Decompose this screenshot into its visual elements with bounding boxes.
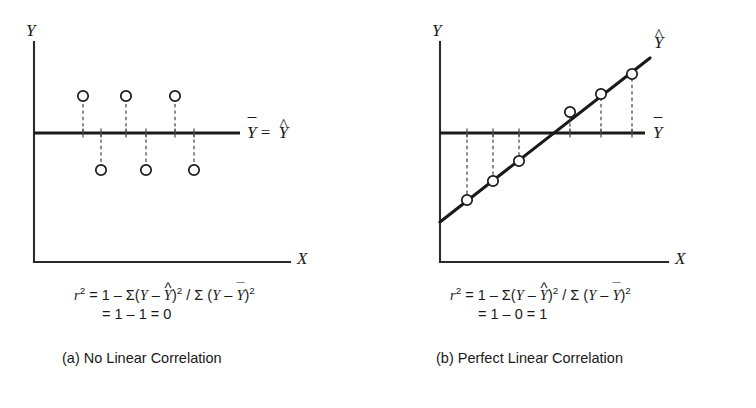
y-axis-label: Y — [26, 22, 35, 39]
exponent: 2 — [456, 285, 461, 296]
data-point — [462, 195, 472, 205]
variable-y: Y — [212, 287, 220, 303]
data-point — [189, 165, 199, 175]
r-squared-result: = 1 – 0 = 1 — [478, 306, 547, 322]
plot-b — [378, 0, 756, 408]
exponent: 2 — [625, 285, 630, 296]
symbol-base: Y — [654, 33, 663, 52]
r-squared-formula: r2 = 1 – Σ(Y – Y^)2 / Σ (Y – Y¯)2 — [74, 284, 255, 306]
data-point — [514, 156, 524, 166]
panel-caption-b: (b) Perfect Linear Correlation — [436, 350, 623, 366]
variable-y: Y — [140, 287, 148, 303]
mean-line-label: Y¯ = Y^ — [247, 124, 288, 141]
r-squared-result: = 1 – 1 = 0 — [102, 306, 171, 322]
mean-line-label: Y¯ — [653, 124, 662, 141]
x-axis-label: X — [297, 250, 307, 267]
data-point — [488, 176, 498, 186]
variable-y: Y — [588, 287, 596, 303]
exponent: 2 — [177, 285, 182, 296]
panel-b: YXY¯Y^r2 = 1 – Σ(Y – Y^)2 / Σ (Y – Y¯)2=… — [378, 0, 756, 408]
y-axis-label: Y — [432, 22, 441, 39]
data-point — [96, 165, 106, 175]
data-point — [121, 91, 131, 101]
exponent: 2 — [249, 285, 254, 296]
exponent: 2 — [80, 285, 85, 296]
plot-a — [0, 0, 378, 408]
symbol-base: Y — [612, 287, 620, 303]
symbol-base: Y — [164, 287, 172, 303]
symbol-base: Y — [540, 287, 548, 303]
y-hat-symbol: Y^ — [279, 124, 288, 141]
y-hat-symbol: Y^ — [540, 284, 548, 306]
symbol-base: Y — [236, 287, 244, 303]
data-point — [170, 91, 180, 101]
exponent: 2 — [553, 285, 558, 296]
data-point — [565, 107, 575, 117]
y-bar-symbol: Y¯ — [612, 284, 620, 306]
data-point — [627, 69, 637, 79]
panel-a: YXY¯ = Y^r2 = 1 – Σ(Y – Y^)2 / Σ (Y – Y¯… — [0, 0, 378, 408]
symbol-base: Y — [279, 123, 288, 142]
y-hat-symbol: Y^ — [164, 284, 172, 306]
y-bar-symbol: Y¯ — [236, 284, 244, 306]
data-point — [141, 165, 151, 175]
figure-container: YXY¯ = Y^r2 = 1 – Σ(Y – Y^)2 / Σ (Y – Y¯… — [0, 0, 756, 408]
y-hat-symbol: Y^ — [654, 34, 663, 51]
y-bar-symbol: Y¯ — [653, 124, 662, 141]
y-bar-symbol: Y¯ — [247, 124, 256, 141]
symbol-base: Y — [247, 123, 256, 142]
data-point — [78, 91, 88, 101]
r-squared-formula: r2 = 1 – Σ(Y – Y^)2 / Σ (Y – Y¯)2 — [450, 284, 631, 306]
panel-caption-a: (a) No Linear Correlation — [62, 350, 222, 366]
symbol-base: Y — [653, 123, 662, 142]
data-point — [596, 89, 606, 99]
regression-line-label: Y^ — [654, 34, 663, 51]
variable-y: Y — [516, 287, 524, 303]
x-axis-label: X — [675, 250, 685, 267]
